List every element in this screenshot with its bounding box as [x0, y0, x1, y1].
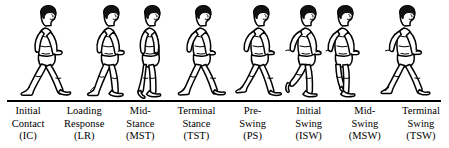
- phase-abbreviation: (LR): [56, 130, 112, 143]
- phase-name-line2: Contact: [0, 118, 56, 131]
- phase-abbreviation: (MST): [112, 130, 168, 143]
- phase-name-line1: Mid-: [337, 105, 393, 118]
- phase-label-terminal-stance: Terminal Stance (TST): [168, 105, 224, 148]
- phase-name-line1: Terminal: [168, 105, 224, 118]
- phase-abbreviation: (MSW): [337, 130, 393, 143]
- phase-abbreviation: (PS): [225, 130, 281, 143]
- phase-label-mid-swing: Mid- Swing (MSW): [337, 105, 393, 148]
- phase-name-line1: Pre-: [225, 105, 281, 118]
- gait-figure-terminal-swing: [376, 0, 432, 104]
- phase-label-row: Initial Contact (IC) Loading Response (L…: [0, 105, 449, 148]
- phase-name-line2: Stance: [168, 118, 224, 131]
- gait-figure-terminal-stance: [172, 0, 228, 104]
- gait-figure-mid-stance: [121, 0, 177, 104]
- phase-name-line1: Mid-: [112, 105, 168, 118]
- gait-cycle-figure: Initial Contact (IC) Loading Response (L…: [0, 0, 449, 148]
- phase-name-line2: Swing: [337, 118, 393, 131]
- phase-name-line1: Loading: [56, 105, 112, 118]
- gait-figure-mid-swing: [314, 0, 370, 104]
- phase-label-terminal-swing: Terminal Swing (TSW): [393, 105, 449, 148]
- phase-name-line2: Stance: [112, 118, 168, 131]
- phase-name-line2: Swing: [225, 118, 281, 131]
- phase-name-line1: Terminal: [393, 105, 449, 118]
- phase-label-mid-stance: Mid- Stance (MST): [112, 105, 168, 148]
- ground-line: [7, 100, 441, 102]
- phase-label-initial-swing: Initial Swing (ISW): [281, 105, 337, 148]
- phase-abbreviation: (IC): [0, 130, 56, 143]
- phase-name-line1: Initial: [281, 105, 337, 118]
- phase-abbreviation: (TST): [168, 130, 224, 143]
- phase-abbreviation: (TSW): [393, 130, 449, 143]
- phase-label-pre-swing: Pre- Swing (PS): [225, 105, 281, 148]
- phase-name-line1: Initial: [0, 105, 56, 118]
- phase-name-line2: Swing: [281, 118, 337, 131]
- gait-figure-initial-contact: [17, 0, 73, 104]
- phase-name-line2: Swing: [393, 118, 449, 131]
- gait-figure-row: [0, 0, 449, 104]
- phase-abbreviation: (ISW): [281, 130, 337, 143]
- phase-label-loading-response: Loading Response (LR): [56, 105, 112, 148]
- phase-label-initial-contact: Initial Contact (IC): [0, 105, 56, 148]
- phase-name-line2: Response: [56, 118, 112, 131]
